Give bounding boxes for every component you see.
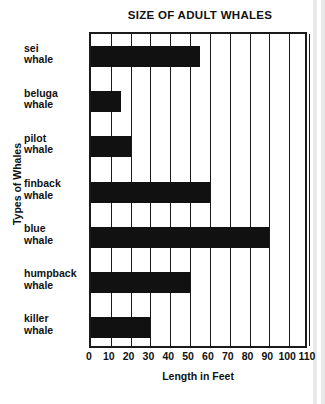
category-label: finbackwhale — [24, 178, 86, 201]
bar — [91, 272, 190, 293]
bar — [91, 136, 131, 157]
x-axis-tick-label: 10 — [103, 350, 115, 362]
category-label-list: seiwhalebelugawhalepilotwhalefinbackwhal… — [24, 32, 86, 348]
x-axis-tick-label: 20 — [123, 350, 135, 362]
plot-area — [89, 32, 307, 348]
x-axis-tick-label: 0 — [86, 350, 92, 362]
bar — [91, 317, 150, 338]
chart-page: SIZE OF ADULT WHALES Types of Whales sei… — [0, 0, 325, 404]
bar-series — [91, 34, 305, 346]
category-label-line: whale — [24, 99, 86, 111]
category-label: pilotwhale — [24, 133, 86, 156]
bar — [91, 91, 121, 112]
category-label-line: whale — [24, 190, 86, 202]
x-axis-tick-label: 90 — [262, 350, 274, 362]
category-label-line: whale — [24, 325, 86, 337]
x-axis-tick-label: 60 — [202, 350, 214, 362]
bar — [91, 182, 210, 203]
category-label-line: whale — [24, 235, 86, 247]
x-axis-tick-labels: 0102030405060708090100110 — [89, 350, 307, 366]
scan-artifact-band — [321, 0, 325, 404]
y-axis-title: Types of Whales — [11, 129, 23, 239]
category-label: bluewhale — [24, 223, 86, 246]
x-axis-tick-label: 50 — [182, 350, 194, 362]
x-axis-title: Length in Feet — [89, 370, 307, 382]
category-label: humpbackwhale — [24, 268, 86, 291]
category-label: killerwhale — [24, 313, 86, 336]
x-axis-tick-label: 100 — [278, 350, 296, 362]
category-label-line: blue — [24, 223, 86, 235]
category-label-line: whale — [24, 280, 86, 292]
bar — [91, 227, 269, 248]
bar — [91, 46, 200, 67]
x-axis-tick-label: 80 — [242, 350, 254, 362]
x-axis-tick-label: 70 — [222, 350, 234, 362]
x-axis-tick-label: 30 — [143, 350, 155, 362]
category-label-line: whale — [24, 144, 86, 156]
category-label-line: whale — [24, 54, 86, 66]
x-axis-tick-label: 110 — [299, 350, 316, 362]
gridline — [309, 34, 310, 346]
category-label-line: finback — [24, 178, 86, 190]
category-label: seiwhale — [24, 43, 86, 66]
chart-title: SIZE OF ADULT WHALES — [88, 9, 312, 21]
x-axis-tick-label: 40 — [162, 350, 174, 362]
category-label: belugawhale — [24, 88, 86, 111]
scan-artifact-band — [313, 0, 317, 404]
